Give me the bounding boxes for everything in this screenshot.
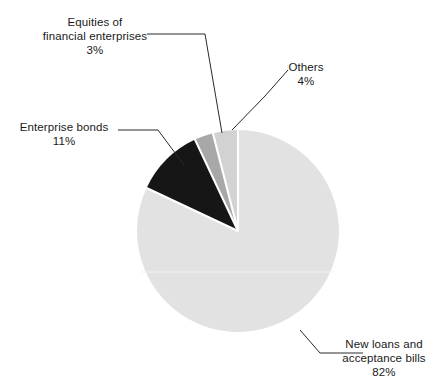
slice-label-new-loans-value: 82% [330, 365, 438, 379]
slice-label-equities: Equities of financial enterprises 3% [20, 15, 170, 57]
slice-label-equities-line1: Equities of [20, 15, 170, 29]
slice-label-equities-value: 3% [20, 43, 170, 57]
slice-label-enterprise-bonds: Enterprise bonds 11% [8, 120, 120, 148]
pie-chart-figure: Equities of financial enterprises 3% Ent… [0, 0, 440, 389]
slice-label-new-loans: New loans and acceptance bills 82% [330, 337, 438, 379]
pie-chart-canvas [0, 0, 440, 389]
slice-label-enterprise-bonds-line1: Enterprise bonds [8, 120, 120, 134]
slice-label-enterprise-bonds-value: 11% [8, 134, 120, 148]
slice-label-others-value: 4% [272, 74, 340, 88]
slice-label-others-line1: Others [272, 60, 340, 74]
slice-label-new-loans-line1: New loans and [330, 337, 438, 351]
leader-line-new-loans-stem [300, 330, 320, 353]
pie-slices [137, 130, 339, 332]
slice-label-new-loans-line2: acceptance bills [330, 351, 438, 365]
slice-label-equities-line2: financial enterprises [20, 29, 170, 43]
slice-label-others: Others 4% [272, 60, 340, 88]
